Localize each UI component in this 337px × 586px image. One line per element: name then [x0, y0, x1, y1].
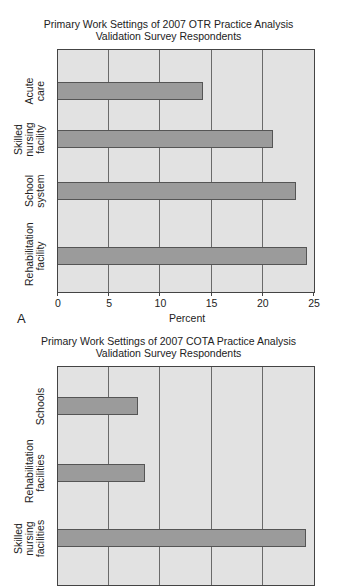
x-tick-label: 10 [150, 297, 170, 309]
chart-a-plot-area [57, 49, 315, 293]
chart-b-title: Primary Work Settings of 2007 COTA Pract… [0, 335, 337, 359]
chart-a-title: Primary Work Settings of 2007 OTR Practi… [0, 18, 337, 42]
x-tick-mark [159, 292, 160, 296]
bar-acute-care [58, 82, 203, 100]
x-tick-label: 25 [304, 297, 324, 309]
x-tick-label: 5 [99, 297, 119, 309]
bar-skilled-nursing-facility [58, 130, 273, 148]
bar-school-system [58, 182, 296, 200]
gridline [211, 367, 212, 585]
y-label-skilled-nursing-facility: Skillednursingfacility [13, 109, 46, 169]
chart-b-title-line-2: Validation Survey Respondents [0, 347, 337, 359]
y-label-school-system: Schoolsystem [24, 161, 46, 221]
chart-a-title-line-2: Validation Survey Respondents [0, 30, 337, 42]
x-tick-mark [262, 292, 263, 296]
bar-rehabilitation-facility [58, 247, 307, 265]
bar-rehabilitation-facilities [58, 464, 145, 482]
x-tick-label: 15 [202, 297, 222, 309]
y-label-skilled-nursing-facilities: Skillednursingfacilities [13, 508, 46, 568]
gridline [262, 367, 263, 585]
chart-b-plot-area [57, 366, 315, 586]
bar-skilled-nursing-facilities [58, 529, 306, 547]
x-tick-mark [57, 292, 58, 296]
bar-schools [58, 397, 138, 415]
y-label-rehabilitation-facilities: Rehabilitationfacilities [24, 443, 46, 503]
chart-b-title-line-1: Primary Work Settings of 2007 COTA Pract… [0, 335, 337, 347]
chart-a-panel-label: A [17, 311, 26, 326]
x-tick-label: 20 [253, 297, 273, 309]
y-label-schools: Schools [35, 376, 46, 436]
gridline [159, 367, 160, 585]
y-label-rehabilitation-facility: Rehabilitationfacility [24, 226, 46, 286]
x-tick-mark [108, 292, 109, 296]
x-tick-label: 0 [48, 297, 68, 309]
x-tick-mark [211, 292, 212, 296]
x-tick-mark [313, 292, 314, 296]
chart-a-title-line-1: Primary Work Settings of 2007 OTR Practi… [0, 18, 337, 30]
chart-a-x-axis-title: Percent [169, 312, 205, 324]
